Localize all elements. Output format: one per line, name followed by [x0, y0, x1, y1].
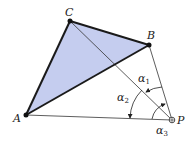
label-c: C — [65, 6, 74, 19]
label-alpha3: α3 — [156, 124, 168, 138]
label-a: A — [12, 112, 21, 125]
label-alpha1: α1 — [138, 72, 150, 86]
point-a — [24, 113, 29, 118]
point-p — [169, 117, 175, 123]
point-b — [147, 43, 152, 48]
label-b: B — [146, 29, 155, 42]
triangle-abc — [26, 21, 149, 115]
label-alpha2: α2 — [117, 91, 129, 105]
point-c — [68, 19, 73, 24]
line-ap — [26, 115, 172, 120]
label-p: P — [176, 114, 185, 127]
arc-alpha2 — [130, 90, 142, 118]
diagram-canvas: A B C P α1 α2 α3 — [0, 0, 195, 145]
arc-alpha1 — [146, 87, 162, 92]
